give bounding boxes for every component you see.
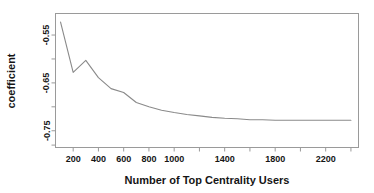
- x-tick-label: 1400: [215, 154, 235, 164]
- x-tick-label: 400: [91, 154, 106, 164]
- x-tick-label: 2200: [316, 154, 336, 164]
- y-axis-title: coefficient: [5, 53, 17, 108]
- x-tick-label: 800: [141, 154, 156, 164]
- x-tick-label: 1000: [164, 154, 184, 164]
- y-tick-label: -0.75: [42, 120, 52, 141]
- y-tick-label: -0.65: [42, 73, 52, 94]
- figure-background: [0, 0, 374, 193]
- x-tick-label: 600: [116, 154, 131, 164]
- x-tick-label: 1800: [265, 154, 285, 164]
- y-tick-label: -0.55: [42, 25, 52, 46]
- chart-plot-area: -0.55-0.65-0.75 200400600800100014001800…: [0, 0, 374, 193]
- y-axis-tick-labels: -0.55-0.65-0.75: [42, 25, 52, 141]
- x-axis-title: Number of Top Centrality Users: [125, 174, 290, 186]
- chart-figure: -0.55-0.65-0.75 200400600800100014001800…: [0, 0, 374, 193]
- x-tick-label: 200: [66, 154, 81, 164]
